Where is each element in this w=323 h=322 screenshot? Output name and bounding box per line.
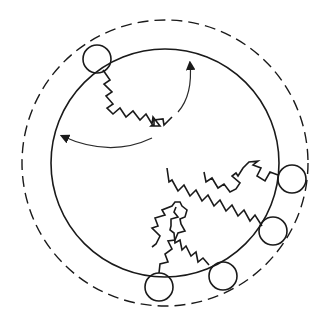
polymer-chain-1 [103,70,172,126]
polymer-chain-4 [152,202,187,273]
polymer-chain-2 [167,168,262,226]
bead-top-left [83,45,111,73]
rotation-arrow-left [62,136,152,148]
polymer-diagram [0,0,323,322]
rotation-arrow-up [178,63,191,112]
polymer-chain-3 [204,161,278,192]
bead-bottom-right [209,262,237,290]
bead-right [278,165,306,193]
inner-surface-circle [51,49,279,277]
bead-lower-right [259,217,287,245]
